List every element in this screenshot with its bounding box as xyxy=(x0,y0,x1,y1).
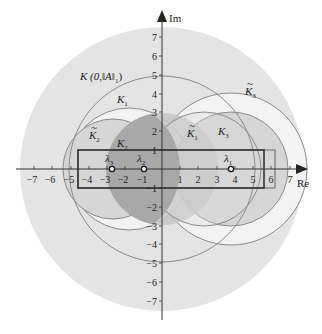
label-k2-tilde-mark: ~ xyxy=(91,121,97,133)
label-k3-tilde-mark: ~ xyxy=(247,77,253,89)
svg-text:2: 2 xyxy=(152,126,157,137)
im-axis-arrow xyxy=(157,10,167,22)
label-k1-tilde-mark: ~ xyxy=(189,119,195,131)
svg-text:−4: −4 xyxy=(146,239,157,250)
svg-text:5: 5 xyxy=(152,70,157,81)
svg-text:−2: −2 xyxy=(146,202,157,213)
svg-text:7: 7 xyxy=(152,32,157,43)
svg-text:1: 1 xyxy=(152,145,157,156)
svg-text:−7: −7 xyxy=(27,174,38,185)
svg-text:−5: −5 xyxy=(146,258,157,269)
svg-text:−6: −6 xyxy=(45,174,56,185)
svg-text:−1: −1 xyxy=(146,183,157,194)
svg-text:5: 5 xyxy=(251,174,256,185)
svg-text:7: 7 xyxy=(288,174,293,185)
svg-text:−3: −3 xyxy=(146,221,157,232)
svg-text:3: 3 xyxy=(215,174,220,185)
svg-text:4: 4 xyxy=(233,174,238,185)
svg-text:−3: −3 xyxy=(100,174,111,185)
diagram-canvas: Re Im −7 −6 −5 −4 −3 −2 −1 1 2 3 4 5 6 7 xyxy=(0,0,322,334)
svg-text:4: 4 xyxy=(152,89,157,100)
svg-text:−6: −6 xyxy=(146,277,157,288)
svg-text:3: 3 xyxy=(152,107,157,118)
im-axis-label: Im xyxy=(169,12,182,24)
svg-text:−5: −5 xyxy=(64,174,75,185)
svg-text:2: 2 xyxy=(196,174,201,185)
svg-text:6: 6 xyxy=(269,174,274,185)
svg-text:1: 1 xyxy=(178,174,183,185)
svg-text:−4: −4 xyxy=(82,174,93,185)
svg-text:−2: −2 xyxy=(118,174,129,185)
svg-text:−7: −7 xyxy=(146,296,157,307)
svg-text:6: 6 xyxy=(152,51,157,62)
re-axis-label: Re xyxy=(297,177,309,189)
